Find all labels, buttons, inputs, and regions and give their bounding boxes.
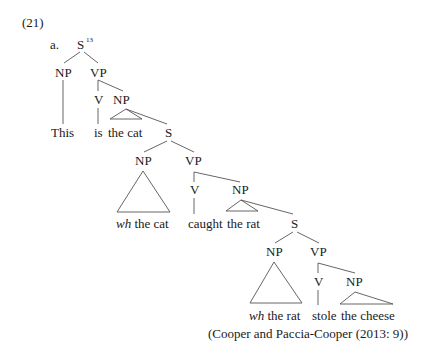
root-superscript: 13: [86, 36, 94, 44]
terminal-is: is: [94, 125, 103, 140]
edge-s3-np: [275, 232, 293, 243]
example-label: a.: [50, 37, 59, 52]
terminal-wh-the-rat: wh the rat: [249, 308, 301, 323]
node-vp-3: VP: [310, 244, 327, 259]
syntax-tree-diagram: (21) a. S 13 NP VP V NP This is the cat …: [0, 0, 428, 358]
triangle-the-cheese: [340, 292, 393, 304]
node-v-1: V: [94, 92, 104, 107]
root-node-s: S: [77, 37, 84, 52]
terminal-the-cat-1: the cat: [108, 125, 143, 140]
edge-s2-vp: [171, 141, 194, 152]
terminal-caught: caught: [188, 216, 223, 231]
terminal-this: This: [51, 125, 74, 140]
citation: (Cooper and Paccia-Cooper (2013: 9)): [208, 326, 408, 341]
edge-np-s: [126, 109, 167, 124]
edge-vp-np: [98, 80, 123, 91]
edge-s3-vp: [297, 232, 319, 243]
triangle-wh-the-cat: [117, 171, 170, 212]
edge-vp3-np: [318, 263, 355, 273]
terminal-the-cheese: the cheese: [341, 308, 395, 323]
triangle-the-rat: [226, 200, 258, 211]
node-s-2: S: [291, 216, 298, 231]
terminal-wh-the-cat: wh the cat: [116, 216, 169, 231]
node-np-3: NP: [266, 244, 283, 259]
edge-np2-s: [241, 200, 293, 214]
edge-s-np: [64, 52, 80, 63]
terminal-the-rat: the rat: [227, 216, 260, 231]
node-v-3: V: [314, 274, 324, 289]
edge-vp2-np: [194, 172, 240, 182]
node-np-1: NP: [55, 65, 72, 80]
terminal-stole: stole: [312, 308, 337, 323]
edge-s-vp: [84, 52, 98, 63]
edge-s2-np: [144, 141, 167, 152]
node-vp-1: VP: [90, 65, 107, 80]
triangle-wh-the-rat: [250, 262, 302, 303]
node-np-2: NP: [135, 153, 152, 168]
triangle-the-cat-1: [110, 109, 142, 119]
example-number: (21): [22, 15, 44, 30]
node-np2-2: NP: [232, 182, 249, 197]
node-np2-1: NP: [113, 92, 130, 107]
node-vp-2: VP: [185, 153, 202, 168]
node-s-1: S: [165, 125, 172, 140]
node-np2-3: NP: [346, 274, 363, 289]
node-v-2: V: [190, 182, 200, 197]
